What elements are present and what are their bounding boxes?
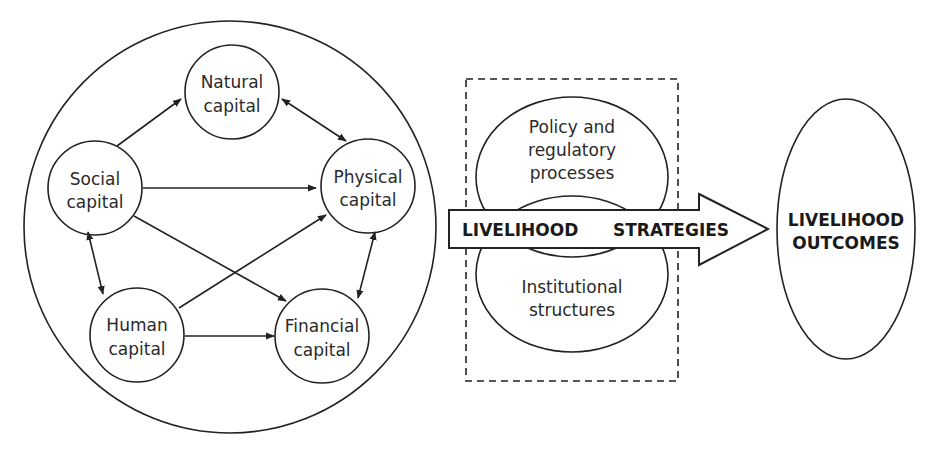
edge-physical-financial	[358, 232, 375, 298]
edge-natural-physical	[282, 99, 346, 141]
node-human-capital: Human capital	[90, 288, 184, 382]
edge-human-physical	[179, 215, 326, 308]
svg-text:Social: Social	[70, 169, 120, 189]
node-financial-capital: Financial capital	[275, 289, 369, 383]
edge-social-human	[88, 232, 103, 294]
outcomes-label-2: OUTCOMES	[792, 233, 900, 253]
institutions-label-2: structures	[529, 300, 615, 320]
svg-text:Financial: Financial	[285, 316, 359, 336]
node-social-capital: Social capital	[48, 141, 142, 235]
institutions-label-1: Institutional	[521, 277, 622, 297]
node-natural-capital: Natural capital	[185, 45, 279, 139]
policy-label-1: Policy and	[529, 117, 615, 137]
policy-label-2: regulatory	[528, 140, 616, 160]
svg-text:Human: Human	[106, 315, 167, 335]
svg-text:capital: capital	[293, 340, 350, 360]
arrow-label-livelihood: LIVELIHOOD	[462, 220, 578, 240]
svg-text:capital: capital	[339, 190, 396, 210]
svg-text:capital: capital	[66, 192, 123, 212]
arrow-label-strategies: STRATEGIES	[613, 220, 729, 240]
svg-text:Physical: Physical	[333, 167, 402, 187]
svg-text:capital: capital	[203, 96, 260, 116]
svg-text:Natural: Natural	[201, 72, 264, 92]
svg-text:capital: capital	[108, 339, 165, 359]
policy-label-3: processes	[530, 163, 615, 183]
outcomes-label-1: LIVELIHOOD	[788, 210, 904, 230]
node-physical-capital: Physical capital	[321, 139, 415, 233]
livelihoods-diagram: Natural capital Social capital Physical …	[0, 0, 938, 453]
edge-social-natural	[117, 99, 181, 146]
